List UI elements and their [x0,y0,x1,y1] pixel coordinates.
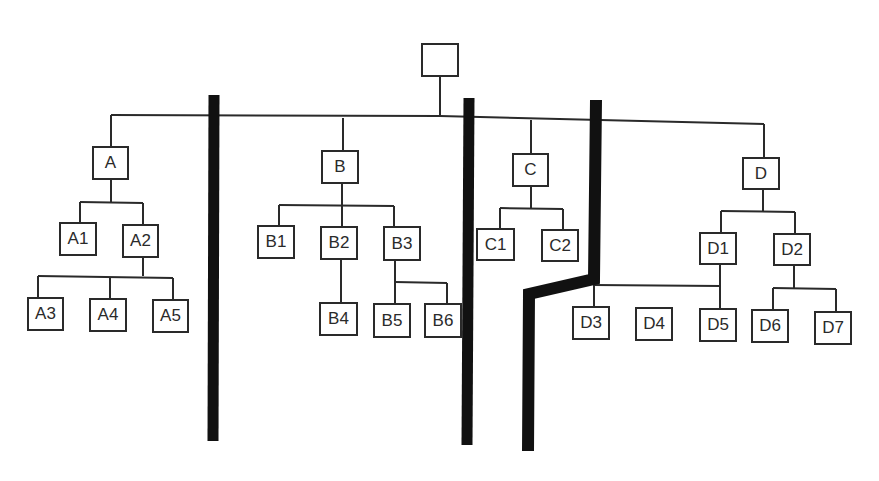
node-d3: D3 [572,306,610,340]
node-label: B3 [392,234,413,254]
node-label: B6 [433,311,454,331]
node-label: B2 [329,233,350,253]
node-label: A5 [160,306,181,326]
node-label: C1 [485,235,507,255]
node-label: B5 [382,311,403,331]
node-b: B [321,150,359,184]
node-c2: C2 [541,229,579,262]
node-b5: B5 [373,303,411,338]
node-d4: D4 [635,307,673,341]
node-d5: D5 [699,308,737,342]
node-d: D [742,157,780,190]
node-label: D5 [707,315,729,335]
node-b3: B3 [383,226,421,261]
node-a2: A2 [122,224,159,258]
node-c1: C1 [476,228,515,261]
node-label: C [524,160,536,180]
node-label: A3 [35,304,56,324]
node-a1: A1 [59,222,97,256]
node-label: B1 [266,232,287,252]
node-a4: A4 [89,298,127,332]
node-d6: D6 [751,309,789,343]
node-label: D1 [707,239,729,259]
node-label: D2 [781,240,803,260]
node-a3: A3 [27,297,64,331]
node-root [421,43,459,77]
node-b2: B2 [320,226,358,260]
node-label: A2 [130,231,151,251]
node-b6: B6 [424,303,462,338]
node-c: C [512,153,549,187]
node-a5: A5 [152,299,189,333]
node-label: B4 [328,309,349,329]
node-label: B [334,157,345,177]
node-label: D7 [822,318,844,338]
divider-1 [213,95,214,441]
node-label: D6 [759,316,781,336]
node-label: A [105,153,116,173]
node-a: A [92,146,129,180]
node-label: D3 [580,313,602,333]
node-label: C2 [549,236,571,256]
node-label: A1 [68,229,89,249]
org-chart-diagram: AA1A2A3A4A5BB1B2B3B4B5B6CC1C2DD1D2D3D4D5… [0,0,879,481]
node-b1: B1 [257,225,295,259]
node-label: A4 [98,305,119,325]
node-label: D [755,164,767,184]
divider-2 [467,98,469,445]
node-d2: D2 [773,233,811,266]
node-d1: D1 [699,232,737,265]
node-d7: D7 [814,311,852,345]
node-b4: B4 [319,302,358,336]
node-label: D4 [643,314,665,334]
